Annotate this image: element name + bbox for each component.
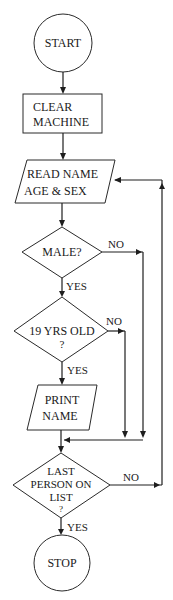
start-label: START	[45, 36, 82, 50]
arrow-age-yes: YES	[59, 362, 88, 385]
male-yes-label: YES	[66, 280, 87, 292]
arrow-male-yes: YES	[59, 278, 87, 297]
clear-machine-line1: CLEAR	[33, 100, 72, 114]
start-node: START	[34, 14, 92, 72]
read-line2: AGE & SEX	[24, 184, 87, 198]
arrow-last-yes: YES	[58, 518, 88, 535]
last-line4: ?	[59, 504, 63, 514]
male-no-label: NO	[108, 238, 124, 250]
male-decision-node: MALE?	[22, 227, 102, 278]
print-line1: PRINT	[45, 393, 80, 407]
age-no-label: NO	[106, 315, 122, 327]
stop-node: STOP	[34, 535, 90, 591]
arrow-clear-to-read	[60, 133, 66, 160]
last-no-label: NO	[123, 471, 139, 483]
print-output-node: PRINT NAME	[27, 385, 97, 430]
arrow-male-no: NO	[102, 238, 146, 438]
arrow-read-to-male	[59, 203, 65, 227]
print-parallelogram	[27, 385, 97, 430]
flowchart: START CLEAR MACHINE READ NAME AGE & SEX …	[0, 0, 173, 600]
age-line1: 19 YRS OLD	[29, 324, 95, 338]
age-yes-label: YES	[67, 364, 88, 376]
arrow-age-no: NO	[106, 315, 128, 438]
print-line2: NAME	[42, 409, 77, 423]
stop-label: STOP	[47, 556, 76, 570]
arrow-start-to-clear	[60, 72, 66, 94]
clear-machine-node: CLEAR MACHINE	[23, 94, 102, 133]
male-label: MALE?	[42, 245, 81, 259]
read-input-node: READ NAME AGE & SEX	[15, 160, 115, 203]
clear-machine-line2: MACHINE	[33, 115, 89, 129]
read-line1: READ NAME	[27, 167, 98, 181]
last-yes-label: YES	[67, 521, 88, 533]
age-decision-node: 19 YRS OLD ?	[14, 297, 108, 362]
arrow-print-to-last	[58, 430, 64, 453]
last-person-decision-node: LAST PERSON ON LIST ?	[13, 453, 110, 518]
age-line2: ?	[60, 338, 65, 350]
last-line1: LAST	[47, 465, 75, 477]
last-line2: PERSON ON	[31, 478, 92, 490]
merge-connector	[64, 437, 143, 443]
last-line3: LIST	[49, 491, 73, 503]
